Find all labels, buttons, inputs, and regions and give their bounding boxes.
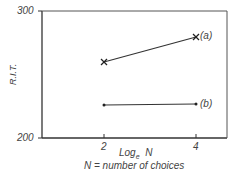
x-axis-note: N = number of choices	[84, 160, 184, 171]
series-b-marker-icon	[103, 104, 106, 107]
y-tick-label-300: 300	[17, 5, 34, 16]
x-tick-label-2: 2	[101, 141, 107, 152]
series-a-line	[104, 37, 196, 62]
x-axis-label: Loge N	[119, 147, 152, 160]
y-tick-label-200: 200	[17, 132, 34, 143]
series-a-label: (a)	[200, 30, 212, 41]
series-b-line	[104, 104, 196, 105]
series-b-marker-icon	[195, 103, 198, 106]
y-axis-label: R.I.T.	[8, 64, 18, 85]
x-tick-label-4: 4	[193, 141, 199, 152]
series-b-label: (b)	[200, 98, 212, 109]
